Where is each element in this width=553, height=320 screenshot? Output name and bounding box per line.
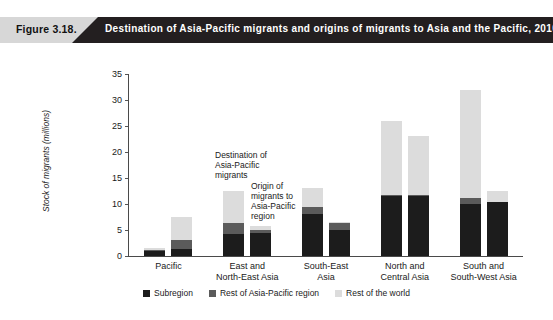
y-axis-tick-label: 0 bbox=[100, 252, 122, 261]
legend-item: Rest of Asia-Pacific region bbox=[209, 288, 319, 298]
bar-segment bbox=[408, 136, 429, 195]
bar-segment bbox=[460, 90, 481, 199]
y-axis-tick-label: 10 bbox=[100, 200, 122, 209]
chart-legend: SubregionRest of Asia-Pacific regionRest… bbox=[0, 288, 553, 298]
annotation-origin: Origin of migrants to Asia-Pacific regio… bbox=[251, 181, 295, 221]
bar-segment bbox=[302, 207, 323, 215]
y-axis-tick-label: 20 bbox=[100, 148, 122, 157]
bar-segment bbox=[381, 196, 402, 256]
bar-destination bbox=[223, 191, 244, 256]
bar-segment bbox=[381, 121, 402, 195]
bar-segment bbox=[171, 240, 192, 249]
x-axis-category-label: South and South-West Asia bbox=[429, 261, 539, 282]
y-axis-tick-label: 35 bbox=[100, 70, 122, 79]
legend-swatch bbox=[143, 290, 150, 297]
bar-destination bbox=[460, 90, 481, 256]
bar-segment bbox=[487, 191, 508, 202]
figure-banner: Figure 3.18. Destination of Asia-Pacific… bbox=[0, 17, 553, 43]
y-axis-tick-label: 25 bbox=[100, 122, 122, 131]
y-axis-label: Stock of migrants (millions) bbox=[41, 66, 51, 256]
y-axis-tick-label: 30 bbox=[100, 96, 122, 105]
legend-swatch bbox=[209, 290, 216, 297]
legend-item: Rest of the world bbox=[335, 288, 410, 298]
legend-label: Rest of Asia-Pacific region bbox=[220, 288, 319, 298]
bar-segment bbox=[302, 188, 323, 206]
bar-segment bbox=[408, 196, 429, 256]
bar-segment bbox=[223, 223, 244, 233]
bar-segment bbox=[302, 214, 323, 256]
bar-origin bbox=[171, 217, 192, 256]
bar-destination bbox=[302, 188, 323, 256]
bar-segment bbox=[171, 217, 192, 240]
bar-destination bbox=[144, 248, 165, 256]
bar-destination bbox=[381, 121, 402, 256]
bar-origin bbox=[408, 136, 429, 256]
bar-segment bbox=[223, 191, 244, 223]
y-axis-tick-label: 15 bbox=[100, 174, 122, 183]
plot-area bbox=[129, 74, 523, 256]
bar-segment bbox=[223, 234, 244, 256]
legend-label: Rest of the world bbox=[346, 288, 410, 298]
bar-segment bbox=[171, 249, 192, 256]
figure-title: Destination of Asia-Pacific migrants and… bbox=[105, 23, 553, 34]
bar-origin bbox=[250, 226, 271, 256]
legend-swatch bbox=[335, 290, 342, 297]
bar-segment bbox=[460, 204, 481, 256]
figure-number-label: Figure 3.18. bbox=[16, 23, 77, 35]
annotation-destination: Destination of Asia-Pacific migrants bbox=[215, 150, 267, 180]
chart-container: Stock of migrants (millions) 05101520253… bbox=[0, 50, 553, 320]
bar-segment bbox=[487, 202, 508, 256]
x-axis-line bbox=[128, 256, 523, 257]
legend-item: Subregion bbox=[143, 288, 193, 298]
bar-segment bbox=[144, 251, 165, 256]
bar-origin bbox=[329, 222, 350, 256]
y-axis-tick-label: 5 bbox=[100, 226, 122, 235]
bar-segment bbox=[329, 230, 350, 256]
bar-segment bbox=[329, 223, 350, 230]
legend-label: Subregion bbox=[154, 288, 193, 298]
bar-origin bbox=[487, 191, 508, 256]
bar-segment bbox=[250, 233, 271, 256]
